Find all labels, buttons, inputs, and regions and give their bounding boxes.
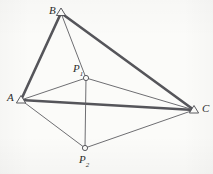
edge-a-p2	[21, 100, 85, 148]
edge-b-c	[61, 13, 194, 110]
vertex-label-p1-text: P	[73, 62, 80, 74]
vertex-label-c: C	[202, 103, 209, 114]
vertex-marker-b	[56, 8, 65, 16]
vertex-label-p1-subscript: 1	[80, 70, 84, 78]
vertex-label-a: A	[7, 92, 14, 103]
edge-p1-p2	[85, 78, 86, 148]
vertex-label-c-text: C	[202, 102, 209, 114]
vertex-label-p2-text: P	[79, 153, 86, 165]
vertex-label-p1: P1	[73, 63, 83, 77]
edge-p2-c	[85, 110, 194, 148]
edge-a-b	[21, 13, 61, 100]
edge-a-c	[21, 100, 194, 110]
figure-canvas	[0, 0, 213, 174]
vertex-label-a-text: A	[7, 91, 14, 103]
vertex-label-b: B	[49, 5, 56, 16]
geometry-figure: B A C P1 P2	[0, 0, 213, 174]
vertex-marker-p1	[83, 75, 88, 80]
vertex-label-b-text: B	[49, 4, 56, 16]
vertex-label-p2: P2	[79, 154, 89, 168]
vertex-label-p2-subscript: 2	[86, 161, 90, 169]
vertex-marker-p2	[82, 145, 87, 150]
